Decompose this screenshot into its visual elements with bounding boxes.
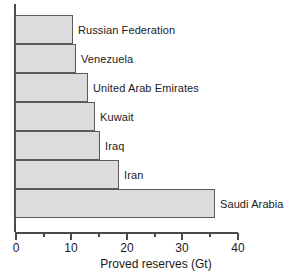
plot-area: Russian Federation Venezuela United Arab… <box>15 15 237 218</box>
bar-label-russian-federation: Russian Federation <box>78 24 175 36</box>
x-tick-minor <box>154 233 156 237</box>
x-tick-label-30: 30 <box>175 241 188 255</box>
x-tick-label-10: 10 <box>64 241 77 255</box>
x-tick-major <box>15 233 17 240</box>
x-tick-label-0: 0 <box>13 241 20 255</box>
x-tick-label-40: 40 <box>231 241 244 255</box>
bar-iraq <box>15 131 100 160</box>
bar-saudi-arabia <box>15 189 215 218</box>
x-tick-major <box>70 233 72 240</box>
x-axis-title: Proved reserves (Gt) <box>0 257 294 271</box>
bar-label-iran: Iran <box>124 169 143 181</box>
x-tick-major <box>237 233 239 240</box>
bar-chart: Russian Federation Venezuela United Arab… <box>0 0 294 275</box>
x-tick-minor <box>209 233 211 237</box>
x-tick-major <box>181 233 183 240</box>
x-tick-label-20: 20 <box>120 241 133 255</box>
bar-venezuela <box>15 44 76 73</box>
bar-russian-federation <box>15 15 73 44</box>
bar-label-united-arab-emirates: United Arab Emirates <box>93 82 199 94</box>
bar-label-kuwait: Kuwait <box>100 111 134 123</box>
x-tick-minor <box>43 233 45 237</box>
bar-iran <box>15 160 119 189</box>
bar-label-venezuela: Venezuela <box>81 53 133 65</box>
bar-kuwait <box>15 102 95 131</box>
bar-united-arab-emirates <box>15 73 88 102</box>
bar-label-iraq: Iraq <box>105 140 124 152</box>
x-tick-minor <box>98 233 100 237</box>
bar-label-saudi-arabia: Saudi Arabia <box>220 198 284 210</box>
x-tick-major <box>126 233 128 240</box>
